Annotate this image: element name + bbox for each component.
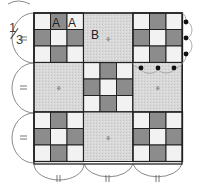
nine-patch-square-dark (34, 129, 51, 146)
nine-patch-square-dark (150, 46, 167, 63)
nine-patch-square-dark (67, 30, 84, 47)
bottom-double-ticks (57, 175, 159, 182)
left-equal-marks (20, 37, 27, 139)
flower-motif-icon: ⚘ (105, 135, 111, 143)
nine-patch-square-dark (51, 145, 68, 162)
nine-patch-square-light (67, 145, 84, 162)
label-a-1: A (52, 17, 60, 29)
nine-patch-square-light (133, 112, 150, 129)
nine-patch-square-light (150, 30, 167, 47)
flower-motif-icon: ⚘ (105, 36, 111, 44)
nine-patch-square-dark (51, 46, 68, 63)
nine-patch-square-light (34, 13, 51, 30)
nine-patch-square-dark (100, 96, 117, 113)
nine-patch-square-dark (117, 79, 134, 96)
fraction-denominator: 3 (16, 32, 23, 47)
nine-patch-square-dark (150, 145, 167, 162)
nine-patch-square-dark (51, 112, 68, 129)
flower-motif-icon: ⚘ (155, 85, 161, 93)
nine-patch-square-light (51, 129, 68, 146)
nine-patch-square-light (133, 145, 150, 162)
nine-patch-square-light (150, 129, 167, 146)
nine-patch-square-dark (150, 13, 167, 30)
nine-patch-square-light (133, 46, 150, 63)
nine-patch-square-light (133, 13, 150, 30)
quilt-blocks: ⚘⚘⚘⚘ (34, 13, 183, 162)
nine-patch-square-dark (133, 30, 150, 47)
nine-patch-square-dark (133, 129, 150, 146)
nine-patch-square-light (117, 96, 134, 113)
label-b: B (91, 29, 99, 41)
nine-patch-square-light (84, 63, 101, 80)
nine-patch-square-light (100, 79, 117, 96)
nine-patch-square-light (51, 30, 68, 47)
left-arc-2 (12, 63, 34, 113)
bottom-arc-3 (133, 164, 182, 177)
right-edge-dots (184, 20, 189, 57)
nine-patch-square-dark (150, 112, 167, 129)
label-a-2: A (68, 17, 76, 29)
nine-patch-square-light (84, 96, 101, 113)
quilt-diagram: ⚘⚘⚘⚘ (0, 0, 197, 190)
nine-patch-square-light (34, 46, 51, 63)
nine-patch-square-dark (84, 79, 101, 96)
nine-patch-square-dark (166, 30, 183, 47)
top-arc-fragment (8, 1, 30, 4)
nine-patch-square-light (166, 112, 183, 129)
nine-patch-square-dark (34, 30, 51, 47)
nine-patch-square-light (34, 145, 51, 162)
nine-patch-square-light (67, 112, 84, 129)
nine-patch-square-light (34, 112, 51, 129)
bottom-arc-1 (34, 164, 84, 180)
nine-patch-square-dark (166, 129, 183, 146)
left-arc-3 (12, 113, 34, 163)
nine-patch-square-light (67, 46, 84, 63)
nine-patch-square-light (166, 13, 183, 30)
nine-patch-square-dark (100, 63, 117, 80)
nine-patch-square-dark (67, 129, 84, 146)
bottom-arc-2 (84, 164, 133, 177)
flower-motif-icon: ⚘ (56, 85, 62, 93)
bottom-arcs (34, 164, 182, 180)
nine-patch-square-light (117, 63, 134, 80)
nine-patch-square-light (166, 145, 183, 162)
fraction-one-third: 1 3 (4, 20, 30, 50)
nine-patch-square-light (166, 46, 183, 63)
